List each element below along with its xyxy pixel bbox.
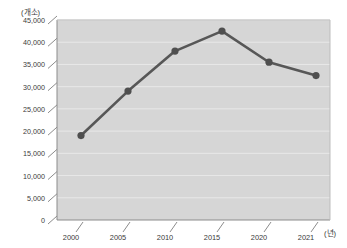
- data-point-marker: [312, 72, 319, 79]
- x-axis-tick-group: 200020052010201520202021: [63, 222, 318, 242]
- y-axis-tick: [48, 194, 57, 202]
- y-axis-tick-label: 15,000: [23, 149, 45, 158]
- y-axis-tick-label: 40,000: [23, 38, 45, 47]
- y-axis-tick-label: 25,000: [23, 105, 45, 114]
- y-axis-tick: [48, 60, 57, 68]
- x-axis-tick-label: 2020: [251, 233, 267, 242]
- y-axis-unit-label: (개소): [21, 7, 41, 17]
- y-axis-tick: [48, 16, 57, 24]
- y-axis-tick-label: 30,000: [23, 83, 45, 92]
- data-point-marker: [218, 28, 225, 35]
- y-axis-tick: [48, 216, 57, 224]
- y-axis-tick-label: 0: [41, 216, 45, 225]
- y-axis-tick-label: 45,000: [23, 16, 45, 25]
- x-axis-tick: [76, 222, 83, 232]
- y-axis-tick-label: 5,000: [27, 194, 45, 203]
- x-axis-tick: [311, 222, 318, 232]
- y-axis-tick: [48, 38, 57, 46]
- data-point-marker: [77, 132, 84, 139]
- line-chart: 05,00010,00015,00020,00025,00030,00035,0…: [0, 0, 347, 248]
- x-axis-tick-label: 2000: [63, 233, 79, 242]
- x-axis-tick: [170, 222, 177, 232]
- y-axis-tick-group: 05,00010,00015,00020,00025,00030,00035,0…: [23, 16, 57, 225]
- x-axis-tick-label: 2021: [298, 233, 314, 242]
- x-axis-tick-label: 2010: [157, 233, 173, 242]
- y-axis-tick: [48, 149, 57, 157]
- x-axis-tick: [217, 222, 224, 232]
- x-axis-tick-label: 2005: [110, 233, 126, 242]
- y-axis-tick-label: 20,000: [23, 127, 45, 136]
- x-axis-tick: [123, 222, 130, 232]
- y-axis-tick-label: 35,000: [23, 60, 45, 69]
- y-axis-tick: [48, 172, 57, 180]
- y-axis-tick: [48, 127, 57, 135]
- data-point-marker: [124, 88, 131, 95]
- y-axis-tick: [48, 83, 57, 91]
- data-point-marker: [171, 48, 178, 55]
- y-axis-tick: [48, 105, 57, 113]
- x-axis-tick-label: 2015: [204, 233, 220, 242]
- data-point-marker: [265, 59, 272, 66]
- y-axis-tick-label: 10,000: [23, 172, 45, 181]
- x-axis-tick: [264, 222, 271, 232]
- x-axis-unit-label: (년): [324, 228, 337, 238]
- chart-canvas: 05,00010,00015,00020,00025,00030,00035,0…: [0, 0, 347, 248]
